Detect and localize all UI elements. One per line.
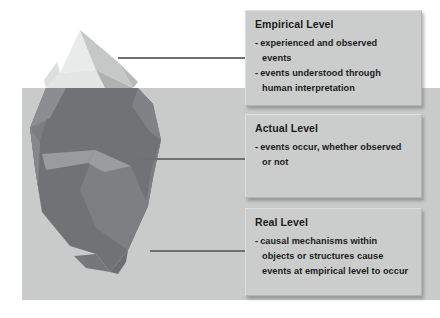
bullet-line: or not	[255, 155, 413, 170]
connector-real	[150, 250, 246, 252]
level-bullet-empirical-2: -events understood through human interpr…	[255, 66, 413, 96]
bullet-line: events understood through	[260, 68, 381, 78]
level-box-actual[interactable]: Actual Level -events occur, whether obse…	[245, 114, 422, 198]
bullet-dash: -	[255, 68, 258, 78]
connector-empirical	[118, 57, 246, 59]
level-box-empirical[interactable]: Empirical Level -experienced and observe…	[245, 10, 422, 106]
bullet-line: events at empirical level to occur	[255, 264, 413, 279]
level-bullet-empirical-1: -experienced and observed events	[255, 36, 413, 66]
bullet-dash: -	[255, 142, 258, 152]
level-title-real: Real Level	[255, 216, 413, 229]
level-box-real[interactable]: Real Level -causal mechanisms within obj…	[245, 208, 422, 296]
connector-actual	[139, 158, 246, 160]
iceberg-tip	[44, 30, 138, 88]
level-title-actual: Actual Level	[255, 122, 413, 135]
iceberg-diagram: Empirical Level -experienced and observe…	[0, 0, 440, 318]
iceberg-submerged-mass	[30, 88, 161, 274]
bullet-dash: -	[255, 38, 258, 48]
bullet-line: human interpretation	[255, 81, 413, 96]
bullet-line: causal mechanisms within	[260, 236, 377, 246]
level-title-empirical: Empirical Level	[255, 18, 413, 31]
bullet-line: events occur, whether observed	[260, 142, 401, 152]
bullet-line: objects or structures cause	[255, 249, 413, 264]
level-bullet-actual-1: -events occur, whether observed or not	[255, 140, 413, 170]
bullet-line: events	[255, 51, 413, 66]
level-bullet-real-1: -causal mechanisms within objects or str…	[255, 234, 413, 279]
bullet-line: experienced and observed	[260, 38, 377, 48]
bullet-dash: -	[255, 236, 258, 246]
